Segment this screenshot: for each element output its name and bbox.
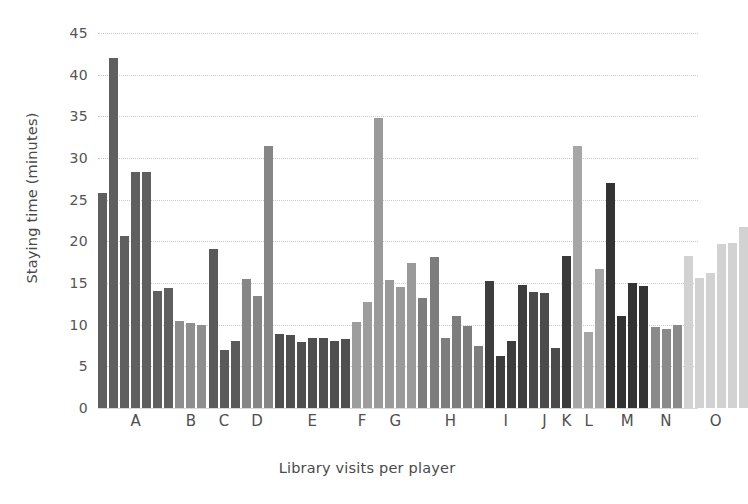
bar-B-1 — [175, 321, 184, 408]
bar-O-5 — [728, 243, 737, 408]
group-label-L: L — [584, 412, 593, 430]
bar-G-1 — [374, 118, 383, 408]
bar-E-3 — [297, 342, 306, 408]
bar-L-3 — [595, 269, 604, 408]
bar-F-1 — [352, 322, 361, 408]
bar-F-2 — [363, 302, 372, 408]
group-label-N: N — [660, 412, 671, 430]
group-label-J: J — [542, 412, 547, 430]
bar-L-1 — [573, 146, 582, 408]
bar-M-4 — [639, 286, 648, 409]
bar-I-1 — [485, 281, 494, 408]
bar-J-3 — [551, 348, 560, 408]
bar-I-2 — [496, 356, 505, 408]
bar-series — [98, 33, 698, 408]
bar-N-1 — [651, 327, 660, 408]
group-label-C: C — [219, 412, 230, 430]
y-axis-tick-45: 45 — [44, 25, 88, 41]
bar-E-4 — [308, 338, 317, 408]
group-label-A: A — [130, 412, 140, 430]
bar-M-1 — [606, 183, 615, 408]
bar-O-2 — [695, 278, 704, 408]
bar-M-2 — [617, 316, 626, 408]
y-axis-tick-40: 40 — [44, 67, 88, 83]
y-axis-tick-25: 25 — [44, 192, 88, 208]
bar-H-2 — [430, 257, 439, 408]
bar-E-7 — [341, 339, 350, 408]
x-axis-title: Library visits per player — [0, 460, 734, 476]
group-label-H: H — [445, 412, 456, 430]
bar-E-1 — [275, 334, 284, 408]
y-axis-tick-10: 10 — [44, 317, 88, 333]
bar-K-1 — [562, 256, 571, 409]
group-label-I: I — [504, 412, 509, 430]
bar-C-2 — [220, 350, 229, 408]
bar-H-4 — [452, 316, 461, 408]
bar-J-1 — [529, 292, 538, 408]
group-label-O: O — [710, 412, 722, 430]
group-label-F: F — [358, 412, 367, 430]
bar-A-6 — [153, 291, 162, 409]
y-axis-tick-labels: 051015202530354045 — [44, 0, 88, 504]
bar-D-1 — [242, 279, 251, 408]
y-axis-title: Staying time (minutes) — [24, 18, 40, 378]
bar-D-2 — [253, 296, 262, 409]
bar-I-4 — [518, 285, 527, 408]
plot-area — [98, 33, 698, 408]
bar-H-6 — [474, 346, 483, 409]
bar-A-5 — [142, 172, 151, 408]
bar-N-2 — [662, 329, 671, 408]
group-label-D: D — [251, 412, 263, 430]
bar-A-1 — [98, 193, 107, 408]
y-axis-tick-0: 0 — [44, 400, 88, 416]
bar-O-3 — [706, 273, 715, 408]
bar-E-6 — [330, 341, 339, 408]
group-label-B: B — [186, 412, 197, 430]
gridline-0 — [98, 408, 698, 409]
bar-I-3 — [507, 341, 516, 409]
bar-B-2 — [186, 323, 195, 408]
bar-E-5 — [319, 338, 328, 408]
group-label-G: G — [389, 412, 401, 430]
bar-J-2 — [540, 293, 549, 408]
bar-H-3 — [441, 338, 450, 408]
bar-H-5 — [463, 326, 472, 409]
bar-A-7 — [164, 288, 173, 408]
bar-E-2 — [286, 335, 295, 408]
bar-A-4 — [131, 172, 140, 408]
bar-G-4 — [407, 263, 416, 408]
bar-L-2 — [584, 332, 593, 408]
y-axis-tick-30: 30 — [44, 150, 88, 166]
group-label-K: K — [562, 412, 572, 430]
y-axis-tick-20: 20 — [44, 233, 88, 249]
bar-C-1 — [209, 249, 218, 408]
group-label-E: E — [308, 412, 318, 430]
bar-N-3 — [673, 325, 682, 408]
y-axis-tick-35: 35 — [44, 108, 88, 124]
y-axis-tick-15: 15 — [44, 275, 88, 291]
bar-D-3 — [264, 146, 273, 409]
bar-A-2 — [109, 58, 118, 408]
bar-O-4 — [717, 244, 726, 408]
group-label-M: M — [621, 412, 634, 430]
x-axis-group-labels: ABCDEFGHIJKLMNO — [98, 412, 698, 438]
bar-G-2 — [385, 280, 394, 408]
bar-C-3 — [231, 341, 240, 408]
bar-B-3 — [197, 325, 206, 408]
bar-H-1 — [418, 298, 427, 408]
bar-G-3 — [396, 287, 405, 408]
bar-A-3 — [120, 236, 129, 408]
bar-M-3 — [628, 283, 637, 408]
bar-O-1 — [684, 256, 693, 409]
bar-O-6 — [739, 227, 748, 408]
y-axis-tick-5: 5 — [44, 358, 88, 374]
